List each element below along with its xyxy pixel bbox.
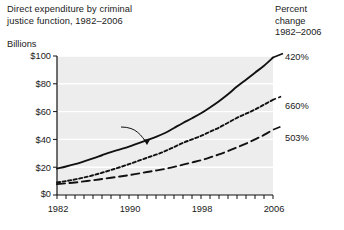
- plot-background: [57, 56, 273, 195]
- plot-area: [0, 0, 344, 230]
- chart-figure: Direct expenditure by criminal justice f…: [0, 0, 344, 230]
- percent-connector-judicial: [273, 126, 283, 130]
- percent-connector-corrections: [273, 96, 283, 100]
- percent-connector-police: [273, 54, 283, 58]
